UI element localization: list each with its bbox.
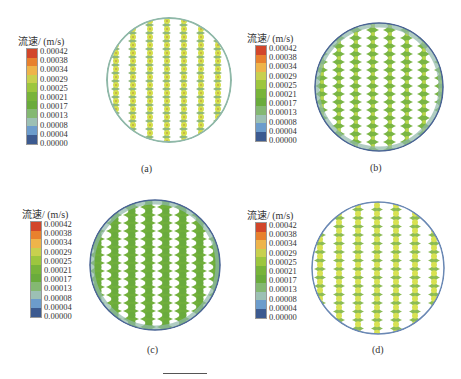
contour-plot-d [311, 201, 445, 335]
legend-labels: 0.00042 0.00038 0.00034 0.00029 0.00025 … [269, 221, 297, 322]
panel-d: 流速/ (m/s) 0.00042 0.00038 0.00034 0.0002… [240, 190, 461, 379]
color-bar [255, 45, 267, 142]
scale-bar [163, 373, 207, 374]
legend-labels: 0.00042 0.00038 0.00034 0.00029 0.00025 … [40, 47, 68, 148]
panel-b: 流速/ (m/s) 0.00042 0.00038 0.00034 0.0002… [240, 0, 461, 190]
panel-a: 流速/ (m/s) 0.00042 0.00038 0.00034 0.0002… [0, 0, 240, 190]
caption-b: (b) [370, 162, 382, 173]
caption-c: (c) [147, 344, 158, 355]
color-bar [30, 221, 42, 318]
caption-a: (a) [141, 163, 152, 174]
legend-labels: 0.00042 0.00038 0.00034 0.00029 0.00025 … [44, 220, 72, 321]
contour-plot-c [89, 199, 221, 331]
color-bar [255, 222, 267, 319]
contour-plot-a [106, 17, 232, 143]
contour-plot-b [314, 22, 444, 152]
color-bar [26, 48, 38, 145]
legend-labels: 0.00042 0.00038 0.00034 0.00029 0.00025 … [269, 44, 297, 145]
caption-d: (d) [372, 344, 384, 355]
panel-c: 流速/ (m/s) 0.00042 0.00038 0.00034 0.0002… [0, 190, 240, 379]
